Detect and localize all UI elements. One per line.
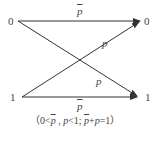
- input-node-0: 0: [8, 16, 14, 27]
- edge-label-1-to-0: p: [102, 38, 108, 49]
- edge-0-to-1: [18, 21, 137, 96]
- caption-close: =1）: [100, 115, 121, 126]
- diagram-caption: （0<p , p<1; p+p=1）: [30, 115, 120, 127]
- caption-sep-2: <1;: [68, 115, 84, 126]
- input-node-1: 1: [10, 92, 16, 103]
- edge-label-1-to-1: p: [77, 101, 83, 112]
- output-node-0: 0: [144, 16, 150, 27]
- output-node-1: 1: [145, 92, 151, 103]
- caption-open: （0<: [30, 115, 51, 126]
- edge-label-0-to-0: p: [77, 6, 83, 17]
- edge-label-0-to-1: p: [96, 76, 102, 87]
